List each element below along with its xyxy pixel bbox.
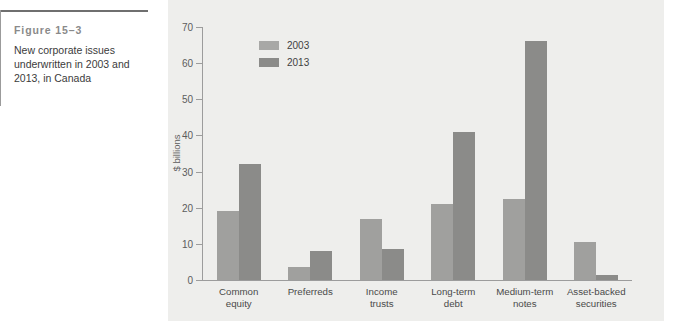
y-axis-tick-mark — [196, 135, 202, 136]
y-axis-tick-label: 40 — [182, 130, 193, 141]
y-axis-tick-label: 0 — [187, 275, 193, 286]
bar-2013 — [239, 164, 261, 280]
bar-2013 — [525, 41, 547, 280]
x-axis-category-label-line: debt — [418, 298, 490, 310]
chart-legend: 20032013 — [259, 40, 309, 74]
bar-2003 — [360, 219, 382, 280]
x-axis-category-label-line: trusts — [346, 298, 418, 310]
x-axis-category-label: Asset-backedsecurities — [561, 286, 633, 311]
legend-swatch-2013 — [259, 58, 279, 67]
caption-top-rule — [0, 10, 148, 12]
bar-group — [418, 27, 490, 280]
bar-2013 — [382, 249, 404, 280]
bar-2003 — [288, 267, 310, 280]
x-axis-category-label-line: notes — [489, 298, 561, 310]
x-axis-category-label: Preferreds — [275, 286, 347, 298]
legend-swatch-2003 — [259, 41, 279, 50]
x-axis-category-label-line: Common — [203, 286, 275, 298]
y-axis-tick-mark — [196, 280, 202, 281]
y-axis-tick-label: 30 — [182, 166, 193, 177]
x-axis-category-label-line: equity — [203, 298, 275, 310]
legend-label-2013: 2013 — [287, 57, 309, 68]
y-axis-tick-mark — [196, 63, 202, 64]
figure-number-label: Figure 15–3 — [14, 24, 144, 36]
caption-text-container: Figure 15–3 New corporate issues underwr… — [14, 24, 144, 86]
x-axis-category-label: Incometrusts — [346, 286, 418, 311]
y-axis-tick-label: 50 — [182, 94, 193, 105]
bar-2013 — [596, 275, 618, 280]
bar-2003 — [503, 199, 525, 280]
y-axis-tick-mark — [196, 244, 202, 245]
legend-item-2003: 2003 — [259, 40, 309, 51]
legend-item-2013: 2013 — [259, 57, 309, 68]
bar-group — [489, 27, 561, 280]
bar-2003 — [217, 211, 239, 280]
x-axis-category-label-line: Income — [346, 286, 418, 298]
x-axis-category-label-line: Preferreds — [275, 286, 347, 298]
x-axis-category-label: Long-termdebt — [418, 286, 490, 311]
y-axis-tick: 0 — [202, 280, 203, 281]
bar-2013 — [310, 251, 332, 280]
x-axis-category-label-line: Medium-term — [489, 286, 561, 298]
y-axis-title: $ billions — [171, 135, 182, 172]
y-axis-tick-mark — [196, 172, 202, 173]
x-axis-category-label: Medium-termnotes — [489, 286, 561, 311]
y-axis-tick-label: 20 — [182, 202, 193, 213]
bar-2013 — [453, 132, 475, 280]
bar-2003 — [574, 242, 596, 280]
x-axis-category-label-line: Long-term — [418, 286, 490, 298]
legend-label-2003: 2003 — [287, 40, 309, 51]
y-axis-tick-label: 10 — [182, 238, 193, 249]
plot-area: 010203040506070 $ billions CommonequityP… — [202, 27, 632, 280]
bar-group — [561, 27, 633, 280]
caption-left-rule — [0, 10, 1, 106]
x-axis-category-label-line: Asset-backed — [561, 286, 633, 298]
y-axis-tick-mark — [196, 208, 202, 209]
figure-caption-block: Figure 15–3 New corporate issues underwr… — [0, 10, 150, 106]
x-axis-category-label: Commonequity — [203, 286, 275, 311]
y-axis-tick-label: 60 — [182, 58, 193, 69]
chart-panel: 010203040506070 $ billions CommonequityP… — [168, 0, 664, 321]
y-axis-tick-mark — [196, 27, 202, 28]
x-axis-line — [202, 280, 632, 281]
x-axis-category-label-line: securities — [561, 298, 633, 310]
figure-caption-label: New corporate issues underwritten in 200… — [14, 43, 144, 86]
y-axis-tick-label: 70 — [182, 22, 193, 33]
bar-2003 — [431, 204, 453, 280]
y-axis-tick-mark — [196, 99, 202, 100]
bar-group — [346, 27, 418, 280]
